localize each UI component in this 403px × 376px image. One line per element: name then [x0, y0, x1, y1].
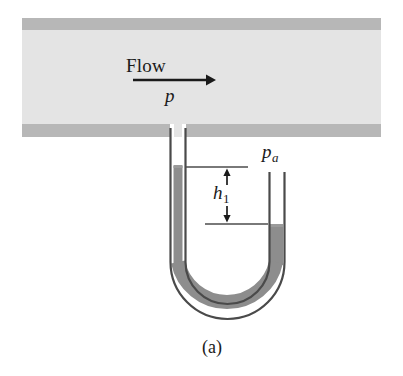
- dimension-arrow-up-head: [223, 169, 230, 177]
- mercury-left-column: [174, 166, 183, 265]
- pipe-group: [22, 18, 381, 137]
- height-h1-label: h1: [213, 183, 230, 205]
- mercury-right-column: [269, 225, 283, 265]
- figure-caption: (a): [192, 338, 232, 356]
- manometer-drawing: [0, 0, 403, 376]
- pipe-interior: [22, 30, 381, 124]
- atmospheric-pressure-subscript: a: [272, 150, 279, 165]
- mercury-left-meniscus: [174, 165, 183, 168]
- height-subscript: 1: [223, 191, 230, 206]
- pipe-lower-wall-tap-gap: [174, 124, 182, 137]
- pipe-pressure-label: p: [165, 86, 175, 105]
- pipe-lower-wall-left: [22, 124, 170, 137]
- atmospheric-pressure-symbol: p: [262, 141, 272, 162]
- flow-label: Flow: [126, 56, 166, 75]
- figure-manometer-diagram: Flow p h1 pa (a): [0, 0, 403, 376]
- mercury-right-meniscus: [269, 224, 283, 227]
- pipe-lower-wall-right: [186, 124, 381, 137]
- dimension-arrow-down-head: [223, 215, 230, 223]
- pipe-upper-wall: [22, 18, 381, 30]
- atmospheric-pressure-label: pa: [262, 142, 279, 164]
- height-symbol: h: [213, 182, 223, 203]
- mercury-u-bend: [178, 262, 276, 302]
